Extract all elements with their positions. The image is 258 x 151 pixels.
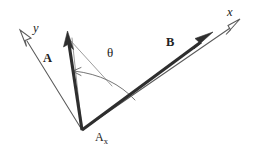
component-ax-subscript: x [104, 136, 109, 146]
x-axis-label: x [226, 5, 233, 19]
component-ax-label: Ax [95, 130, 109, 146]
vector-b-line [82, 42, 201, 130]
vector-diagram-canvas: y x A B θ Ax [0, 0, 258, 151]
vector-a-line [69, 44, 82, 130]
y-axis-label: y [31, 21, 39, 35]
x-axis-arrowhead-icon [226, 19, 240, 35]
angle-theta-label: θ [107, 45, 113, 60]
angle-arc-group [73, 68, 136, 101]
vector-a-label: A [43, 51, 52, 65]
vector-b-group [82, 32, 213, 130]
vector-diagram-figure: y x A B θ Ax [0, 0, 258, 151]
component-ax-base: A [95, 130, 104, 144]
vector-b-label: B [166, 35, 174, 49]
